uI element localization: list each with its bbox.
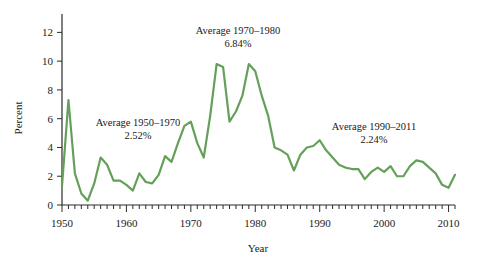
annotation-value-avg-1970-1980: 6.84% [224, 38, 251, 49]
chart-annotations: Average 1950–19702.52%Average 1970–19806… [96, 25, 416, 145]
inflation-line-chart: 024681012 1950196019701980199020002010 P… [0, 0, 491, 267]
annotation-value-avg-1990-2011: 2.24% [360, 134, 387, 145]
x-axis-tick-label: 1980 [244, 217, 267, 229]
y-axis-tick-label: 10 [42, 55, 54, 67]
y-axis-tick-label: 0 [48, 199, 54, 211]
x-axis-tick-label: 1990 [309, 217, 332, 229]
series-line-inflation-rate [62, 64, 455, 201]
annotation-avg-1950-1970: Average 1950–1970 [96, 117, 181, 128]
x-axis-title: Year [248, 242, 269, 254]
y-axis: 024681012 [42, 14, 62, 211]
y-axis-tick-label: 12 [42, 26, 53, 38]
annotation-avg-1990-2011: Average 1990–2011 [332, 121, 416, 132]
y-axis-tick-label: 6 [48, 113, 54, 125]
y-axis-title: Percent [12, 102, 24, 135]
y-axis-tick-label: 8 [48, 84, 54, 96]
y-axis-tick-label: 4 [48, 141, 54, 153]
x-axis-tick-label: 1960 [115, 217, 138, 229]
chart-canvas: 024681012 1950196019701980199020002010 P… [0, 0, 491, 267]
x-axis-tick-label: 2010 [438, 217, 461, 229]
y-axis-tick-label: 2 [48, 170, 54, 182]
x-axis-tick-label: 1970 [180, 217, 203, 229]
x-axis-tick-label: 2000 [373, 217, 396, 229]
x-axis-tick-label: 1950 [51, 217, 74, 229]
annotation-avg-1970-1980: Average 1970–1980 [196, 25, 281, 36]
annotation-value-avg-1950-1970: 2.52% [124, 130, 151, 141]
x-axis: 1950196019701980199020002010 [51, 205, 460, 229]
